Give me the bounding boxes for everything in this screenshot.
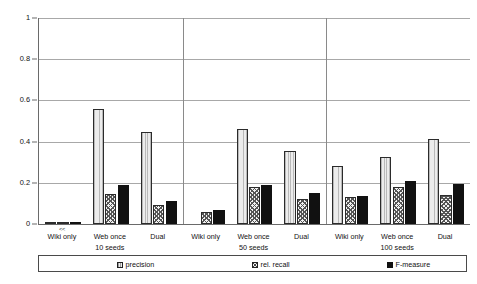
legend-label-f-measure: F-measure (396, 260, 431, 269)
bar-fmeasure-6 (357, 196, 368, 224)
bar-fmeasure-8 (453, 184, 464, 224)
bar-recall-3 (201, 212, 212, 224)
y-tick-mark-3 (32, 100, 37, 101)
x-axis-label-7: Web once (381, 233, 413, 241)
x-axis-group-label-0: 10 seeds (95, 244, 124, 252)
bar-precision-4 (237, 129, 248, 224)
bar-fmeasure-3 (213, 210, 224, 224)
bar-recall-2 (153, 205, 164, 224)
y-axis: 0 0.2 0.4 0.6 0.8 1 (0, 18, 34, 224)
bar-recall-7 (393, 187, 404, 224)
x-axis-label-5: Dual (294, 233, 309, 241)
x-axis-group-label-2: 100 seeds (381, 244, 414, 252)
bar-recall-6 (345, 197, 356, 224)
bar-recall-8 (440, 195, 451, 224)
bar-recall-4 (249, 187, 260, 224)
x-axis-label-1: Web once (94, 233, 126, 241)
x-axis-label-0: Wiki only (48, 233, 77, 241)
group-separator-1 (183, 18, 184, 224)
legend-label-precision: precision (126, 260, 155, 269)
bar-chart: 0 0.2 0.4 0.6 0.8 1 Wiki onlyWeb onceDua… (0, 0, 477, 284)
plot-area (38, 18, 470, 225)
y-tick-mark-0 (32, 224, 37, 225)
bar-fmeasure-4 (261, 185, 272, 224)
chart-legend: precision rel. recall F-measure (38, 255, 467, 272)
legend-label-rel-recall: rel. recall (261, 260, 290, 269)
gridline-0.6 (39, 100, 470, 101)
y-tick-label-0: 0 (0, 220, 30, 227)
y-tick-label-5: 1 (0, 14, 30, 21)
x-axis-group-label-1: 50 seeds (239, 244, 268, 252)
y-tick-mark-5 (32, 18, 37, 19)
x-axis-label-3: Wiki only (191, 233, 220, 241)
y-tick-mark-2 (32, 141, 37, 142)
y-tick-label-1: 0.2 (0, 179, 30, 186)
x-axis-label-6: Wiki only (335, 233, 364, 241)
y-tick-mark-4 (32, 59, 37, 60)
bar-precision-2 (141, 132, 152, 224)
bar-recall-1 (105, 194, 116, 224)
x-axis-label-8: Dual (438, 233, 453, 241)
y-tick-label-4: 0.8 (0, 55, 30, 62)
bar-precision-8 (428, 139, 439, 224)
bar-precision-5 (284, 151, 295, 224)
legend-item-rel-recall: rel. recall (252, 260, 290, 269)
precision-swatch-icon (117, 262, 123, 268)
bar-fmeasure-7 (405, 181, 416, 224)
bar-precision-1 (93, 109, 104, 224)
gridline-1.0 (39, 18, 470, 19)
annotation-marker-0: << (59, 226, 65, 232)
bar-precision-6 (332, 166, 343, 224)
fmeasure-swatch-icon (387, 262, 393, 268)
bar-fmeasure-5 (309, 193, 320, 224)
bar-recall-0 (57, 222, 68, 224)
x-axis-label-4: Web once (237, 233, 269, 241)
y-tick-label-2: 0.4 (0, 138, 30, 145)
bar-precision-7 (380, 157, 391, 224)
y-tick-mark-1 (32, 182, 37, 183)
bar-fmeasure-0 (70, 222, 81, 224)
x-axis-label-2: Dual (150, 233, 165, 241)
group-separator-2 (326, 18, 327, 224)
bar-fmeasure-1 (118, 185, 129, 224)
bar-fmeasure-2 (166, 201, 177, 224)
gridline-0.8 (39, 59, 470, 60)
recall-swatch-icon (252, 262, 258, 268)
bar-recall-5 (297, 199, 308, 224)
bar-precision-0 (45, 222, 56, 224)
legend-item-f-measure: F-measure (387, 260, 430, 269)
legend-item-precision: precision (117, 260, 154, 269)
y-tick-label-3: 0.6 (0, 97, 30, 104)
